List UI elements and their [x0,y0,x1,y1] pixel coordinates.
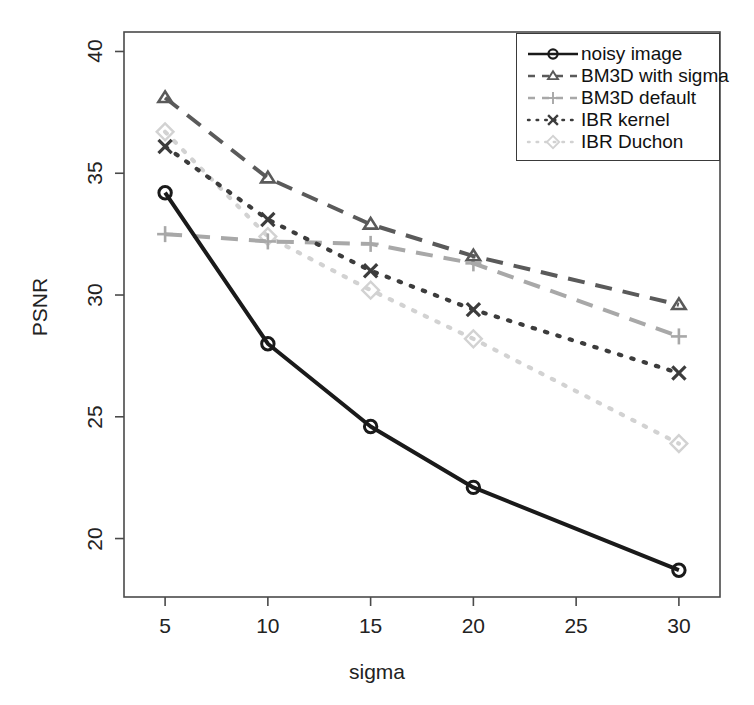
y-tick-label: 20 [83,517,107,561]
legend-key-plus-icon [525,87,581,109]
data-point-diamond [362,282,379,299]
legend-key-circle-icon [525,43,581,65]
series-noisy-image [159,187,685,577]
data-point-cross [467,303,480,316]
y-axis-title: PSNR [28,227,52,387]
x-tick-label: 20 [453,614,493,638]
legend-item-bm3d-with-sigma[interactable]: BM3D with sigma [525,65,719,87]
legend-item-label: IBR kernel [581,109,670,131]
legend-item-label: IBR Duchon [581,131,683,153]
data-point-plus [671,328,687,344]
legend-item-label: BM3D default [581,87,696,109]
x-tick-label: 10 [248,614,288,638]
legend: noisy imageBM3D with sigmaBM3D defaultIB… [516,33,720,161]
y-tick-label: 40 [83,29,107,73]
y-tick-label: 25 [83,395,107,439]
legend-key-triangle-icon [525,65,581,87]
y-tick-label: 35 [83,151,107,195]
data-point-triangle [548,71,558,79]
psnr-vs-sigma-chart: 51015202530 2025303540 sigma PSNR noisy … [0,0,754,705]
x-tick-label: 30 [659,614,699,638]
legend-item-noisy-image[interactable]: noisy image [525,43,719,65]
data-point-plus [157,226,173,242]
legend-item-ibr-kernel[interactable]: IBR kernel [525,109,719,131]
data-point-triangle [364,218,377,229]
legend-item-label: noisy image [581,43,682,65]
legend-key-cross-icon [525,109,581,131]
series-layer [157,91,688,576]
data-point-plus [260,233,276,249]
series-bm3d-default [157,226,687,344]
data-point-plus [363,236,379,252]
data-point-triangle [158,91,171,102]
x-axis-title: sigma [0,660,754,684]
legend-item-label: BM3D with sigma [581,65,729,87]
y-tick-label: 30 [83,273,107,317]
x-tick-label: 15 [351,614,391,638]
x-tick-label: 5 [145,614,185,638]
legend-item-bm3d-default[interactable]: BM3D default [525,87,719,109]
x-tick-label: 25 [556,614,596,638]
legend-key-diamond-icon [525,131,581,153]
data-point-cross [672,366,685,379]
series-ibr-kernel [159,140,686,380]
data-point-plus [547,92,559,104]
legend-item-ibr-duchon[interactable]: IBR Duchon [525,131,719,153]
